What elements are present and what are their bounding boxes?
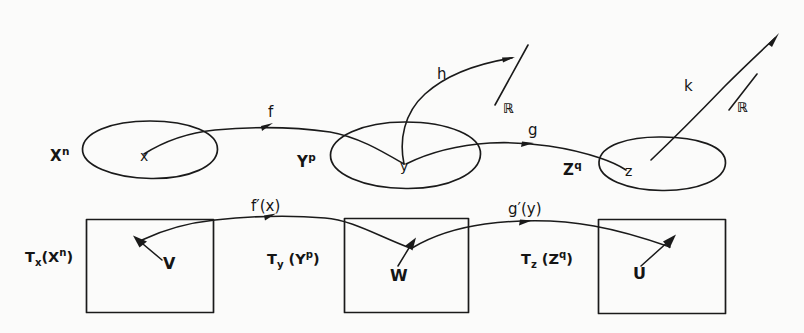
map-arrowhead-h xyxy=(502,57,515,63)
tangent-vector-label-v: V xyxy=(163,256,175,272)
tangent-vector-w-head xyxy=(406,238,417,251)
manifold-label-x: Xn xyxy=(50,149,70,164)
tangent-space-box-x xyxy=(87,220,214,313)
manifold-label-y: Yp xyxy=(297,155,316,170)
tangent-space-label-y: Ty (Yp) xyxy=(267,252,320,267)
derivative-label-df: f′(x) xyxy=(251,199,280,214)
manifold-blob-z xyxy=(599,137,726,191)
point-label-z: z xyxy=(625,164,632,178)
map-curve-f xyxy=(144,128,404,164)
tangent-space-label-z: Tz (Zq) xyxy=(521,252,573,267)
derivative-label-dg: g′(y) xyxy=(508,202,542,217)
map-curve-k xyxy=(651,38,775,160)
map-label-f: f xyxy=(268,105,273,120)
real-line-label-1: ℝ xyxy=(503,102,514,116)
map-curve-g xyxy=(406,143,626,170)
point-label-y: y xyxy=(400,159,408,173)
tangent-space-label-x: Tx(Xn) xyxy=(25,250,73,265)
map-curve-h xyxy=(402,58,512,164)
tangent-vector-label-w: W xyxy=(390,268,408,284)
diagram-canvas: Xn Yp Zq x y z f g h k ℝ ℝ Tx(Xn) Ty (Yp… xyxy=(0,0,804,333)
tangent-vector-label-u: U xyxy=(633,266,646,282)
real-line-1 xyxy=(495,45,528,105)
derivative-curve-df xyxy=(142,216,410,248)
manifold-label-z: Zq xyxy=(563,163,582,178)
map-label-h: h xyxy=(437,67,447,82)
map-arrowhead-k xyxy=(768,33,779,47)
real-line-label-2: ℝ xyxy=(737,101,748,115)
map-label-k: k xyxy=(684,79,693,94)
manifold-blob-y xyxy=(330,122,480,189)
derivative-curve-dg xyxy=(412,221,670,248)
map-label-g: g xyxy=(528,123,538,138)
derivative-arrowhead-dg xyxy=(519,220,532,226)
tangent-space-box-z xyxy=(599,220,726,314)
point-label-x: x xyxy=(140,149,148,163)
